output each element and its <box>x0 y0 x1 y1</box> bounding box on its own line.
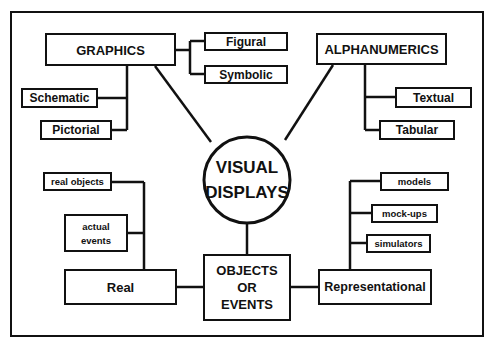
real-label: Real <box>107 280 134 295</box>
node-symbolic: Symbolic <box>205 66 287 83</box>
node-textual: Textual <box>396 88 471 107</box>
node-schematic: Schematic <box>22 89 97 107</box>
node-alphanumerics: ALPHANUMERICS <box>317 34 446 64</box>
objects-label-line3: EVENTS <box>221 297 273 312</box>
visual-displays-diagram: VISUAL DISPLAYS GRAPHICS Figural Symboli… <box>0 0 494 345</box>
graphics-label: GRAPHICS <box>76 43 145 58</box>
actual-events-label-line1: actual <box>82 221 109 232</box>
objects-label-line1: OBJECTS <box>216 263 278 278</box>
symbolic-label: Symbolic <box>219 68 273 82</box>
node-real: Real <box>65 270 176 304</box>
simulators-label: simulators <box>374 238 422 249</box>
node-tabular: Tabular <box>380 121 454 139</box>
representational-label: Representational <box>324 280 425 294</box>
node-models: models <box>381 173 448 190</box>
node-real-objects: real objects <box>44 173 111 190</box>
models-label: models <box>398 176 431 187</box>
textual-label: Textual <box>413 91 454 105</box>
node-visual-displays: VISUAL DISPLAYS <box>204 137 290 223</box>
node-actual-events: actual events <box>65 215 127 251</box>
node-representational: Representational <box>319 270 431 304</box>
node-figural: Figural <box>205 33 287 50</box>
node-graphics: GRAPHICS <box>46 34 175 65</box>
node-pictorial: Pictorial <box>41 121 111 139</box>
alphanumerics-label: ALPHANUMERICS <box>324 42 438 57</box>
node-objects-or-events: OBJECTS OR EVENTS <box>204 255 290 320</box>
objects-label-line2: OR <box>237 280 257 295</box>
pictorial-label: Pictorial <box>52 123 99 137</box>
schematic-label: Schematic <box>29 91 89 105</box>
node-mock-ups: mock-ups <box>372 205 437 222</box>
figural-label: Figural <box>226 35 266 49</box>
real-objects-label: real objects <box>51 176 104 187</box>
tabular-label: Tabular <box>396 123 439 137</box>
center-label-line1: VISUAL <box>216 158 278 177</box>
center-circle <box>204 137 290 223</box>
mock-ups-label: mock-ups <box>382 208 427 219</box>
node-simulators: simulators <box>367 235 430 252</box>
actual-events-label-line2: events <box>81 235 111 246</box>
center-label-line2: DISPLAYS <box>205 183 288 202</box>
